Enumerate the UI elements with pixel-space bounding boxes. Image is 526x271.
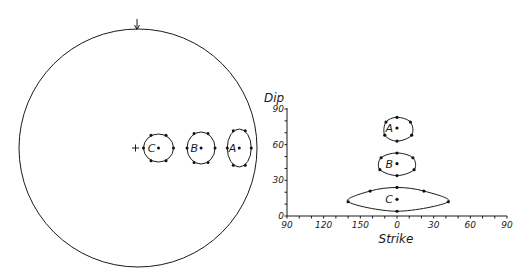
center-point	[200, 147, 203, 150]
strike-dip-plot: 0306090 901201500306090 Dip Strike ABC	[264, 91, 513, 246]
x-tick-label: 90	[501, 220, 513, 230]
figure: CBA 0306090 901201500306090 Dip Strike A…	[0, 0, 526, 271]
outline-point	[150, 159, 153, 162]
y-tick-label: 90	[273, 104, 285, 114]
outline-point	[410, 134, 413, 137]
series-C: C	[347, 186, 450, 213]
outline-point	[165, 159, 168, 162]
arrow-down-icon	[135, 19, 140, 30]
x-tick-label: 0	[394, 220, 400, 230]
x-tick-label: 120	[315, 220, 332, 230]
series-label: C	[385, 193, 393, 206]
outline-point	[409, 120, 412, 123]
outline-point	[207, 132, 210, 135]
outline-point	[380, 156, 383, 159]
outline-point	[395, 116, 398, 119]
outline-point	[395, 140, 398, 143]
center-point	[157, 147, 160, 150]
outline-point	[244, 129, 247, 132]
outline-point	[422, 189, 425, 192]
outline-point	[193, 161, 196, 164]
stereo-group-B: B	[186, 132, 217, 164]
center-point	[395, 198, 398, 201]
series-label: B	[385, 158, 393, 171]
y-axis-title: Dip	[264, 91, 285, 105]
outline-point	[150, 134, 153, 137]
x-tick-label: 60	[465, 220, 477, 230]
outline-point	[347, 200, 350, 203]
x-axis-title: Strike	[379, 232, 414, 246]
center-point	[238, 147, 241, 150]
y-tick-label: 30	[273, 175, 285, 185]
outline-point	[165, 134, 168, 137]
center-point	[395, 126, 398, 129]
outline-point	[413, 168, 416, 171]
outline-point	[172, 147, 175, 150]
outline-point	[395, 151, 398, 154]
outline-point	[395, 210, 398, 213]
stereo-group-C: C	[142, 134, 175, 162]
group-label: A	[228, 142, 237, 155]
outline-point	[395, 186, 398, 189]
center-point	[395, 162, 398, 165]
x-tick-label: 90	[281, 220, 293, 230]
outline-point	[214, 147, 217, 150]
group-label: C	[148, 142, 156, 155]
x-tick-label: 150	[352, 220, 369, 230]
outline-point	[411, 156, 414, 159]
outline-point	[369, 189, 372, 192]
outline-point	[447, 200, 450, 203]
outline-point	[186, 147, 189, 150]
outline-point	[207, 161, 210, 164]
center-plus-marker	[132, 145, 139, 152]
outline-point	[193, 132, 196, 135]
outline-point	[250, 147, 253, 150]
outline-point	[142, 147, 145, 150]
outline-point	[378, 168, 381, 171]
series-B: B	[378, 151, 415, 177]
stereo-group-A: A	[226, 129, 253, 167]
group-label: B	[190, 142, 198, 155]
series-A: A	[383, 116, 413, 143]
stereonet: CBA	[19, 19, 257, 267]
outline-point	[232, 164, 235, 167]
outline-point	[244, 164, 247, 167]
series-label: A	[384, 122, 393, 135]
y-tick-label: 60	[273, 140, 285, 150]
x-tick-label: 30	[428, 220, 440, 230]
outline-point	[395, 174, 398, 177]
outline-point	[232, 129, 235, 132]
